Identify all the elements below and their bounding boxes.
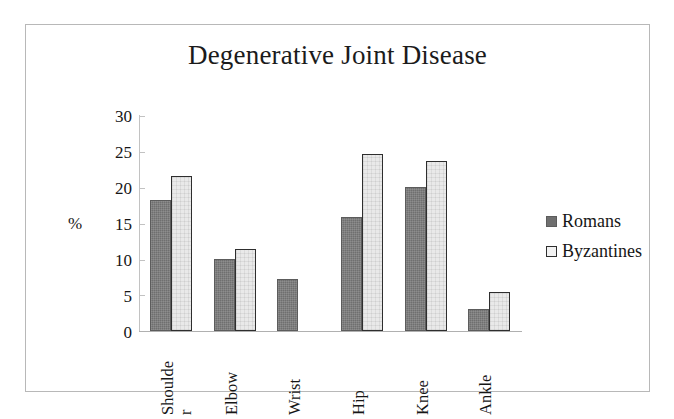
bar-romans-ankle[interactable] [468, 309, 489, 331]
x-tick-label-knee: Knee [414, 337, 432, 415]
y-tick-label-10: 10 [98, 252, 132, 269]
bar-group-elbow [203, 116, 267, 331]
x-tick-label-shoulder-line1: Shoulde [159, 337, 177, 415]
bar-group-shoulder [139, 116, 203, 331]
y-tick-label-0: 0 [98, 324, 132, 341]
bar-byzantines-hip[interactable] [362, 154, 383, 331]
x-tick-label-ankle-line1: Ankle [477, 337, 495, 415]
legend-label-byzantines: Byzantines [562, 241, 642, 261]
bar-romans-knee[interactable] [405, 187, 426, 331]
bar-byzantines-knee[interactable] [426, 161, 447, 331]
y-axis-tick-labels: 30 25 20 15 10 5 0 [92, 25, 132, 419]
legend-item-romans[interactable]: Romans [546, 206, 674, 236]
legend-swatch-byzantines-icon [546, 246, 557, 257]
x-tick-label-wrist: Wrist [286, 337, 304, 415]
y-axis-title: % [68, 215, 82, 232]
x-tick-label-shoulder-line2: r [177, 337, 195, 415]
chart-frame: Degenerative Joint Disease % 30 25 20 15… [25, 24, 650, 392]
x-tick-label-hip-line1: Hip [350, 337, 368, 415]
bar-byzantines-ankle[interactable] [489, 292, 510, 331]
bar-romans-elbow[interactable] [214, 259, 235, 331]
bar-group-hip [330, 116, 394, 331]
bar-byzantines-shoulder[interactable] [171, 176, 192, 331]
chart-legend: Romans Byzantines [546, 206, 674, 266]
plot-area [139, 116, 521, 331]
y-tick-label-15: 15 [98, 216, 132, 233]
bar-romans-shoulder[interactable] [150, 200, 171, 331]
legend-label-romans: Romans [562, 211, 621, 231]
bar-byzantines-elbow[interactable] [235, 249, 256, 331]
bar-romans-hip[interactable] [341, 217, 362, 331]
y-tick-label-25: 25 [98, 144, 132, 161]
bar-group-ankle [457, 116, 521, 331]
y-tick-label-20: 20 [98, 180, 132, 197]
bar-romans-wrist[interactable] [277, 279, 298, 331]
x-tick-label-shoulder: Shoulde r [159, 337, 195, 415]
y-tick-label-30: 30 [98, 108, 132, 125]
x-tick-label-knee-line1: Knee [414, 337, 432, 415]
x-tick-label-wrist-line1: Wrist [286, 337, 304, 415]
bar-group-wrist [266, 116, 330, 331]
legend-item-byzantines[interactable]: Byzantines [546, 236, 674, 266]
x-tick-label-elbow-line1: Elbow [223, 337, 241, 415]
legend-swatch-romans-icon [546, 216, 557, 227]
y-tick-label-5: 5 [98, 288, 132, 305]
x-tick-label-ankle: Ankle [477, 337, 495, 415]
x-axis-line [139, 331, 522, 332]
x-tick-label-hip: Hip [350, 337, 368, 415]
bar-group-knee [394, 116, 458, 331]
x-tick-label-elbow: Elbow [223, 337, 241, 415]
